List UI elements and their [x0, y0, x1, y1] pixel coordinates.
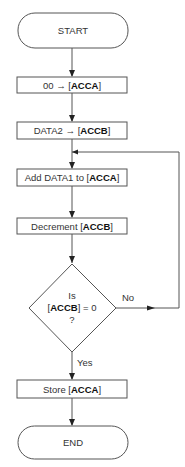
flowchart: START 00 → [ACCA] DATA2 → [ACCB] Add DAT… [0, 0, 185, 467]
arrowhead-icon [69, 373, 75, 380]
svg-text:Add DATA1 to [ACCA]: Add DATA1 to [ACCA] [25, 172, 120, 183]
svg-text:Store [ACCA]: Store [ACCA] [43, 384, 101, 395]
end-label: END [63, 437, 83, 448]
end-terminator: END [18, 426, 128, 459]
process-box-decrement-accb: Decrement [ACCB] [17, 218, 127, 234]
decision-line-1: Is [68, 290, 76, 301]
process-box-store-acca: Store [ACCA] [17, 380, 127, 398]
arrowhead-icon [69, 211, 75, 218]
process-box-add-data1: Add DATA1 to [ACCA] [17, 169, 127, 186]
svg-text:Decrement [ACCB]: Decrement [ACCB] [31, 221, 113, 232]
process-box-clear-acca: 00 → [ACCA] [17, 77, 127, 93]
arrowhead-icon [69, 115, 75, 122]
arrowhead-icon [69, 256, 75, 263]
process-box-load-accb: DATA2 → [ACCB] [17, 122, 127, 139]
start-terminator: START [18, 13, 128, 48]
decision-line-2: [ACCB] = 0 [48, 302, 97, 313]
arrowhead-icon [147, 306, 155, 311]
svg-text:DATA2 → [ACCB]: DATA2 → [ACCB] [34, 125, 111, 136]
svg-text:00 → [ACCA]: 00 → [ACCA] [43, 80, 101, 91]
decision-line-3: ? [69, 314, 74, 325]
yes-label: Yes [77, 357, 93, 368]
decision-diamond: Is [ACCB] = 0 ? [29, 264, 116, 352]
arrowhead-icon [69, 419, 75, 426]
no-label: No [122, 292, 134, 303]
arrowhead-icon [69, 70, 75, 77]
start-label: START [58, 25, 88, 36]
arrowhead-icon [72, 150, 78, 155]
arrowhead-icon [69, 162, 75, 169]
